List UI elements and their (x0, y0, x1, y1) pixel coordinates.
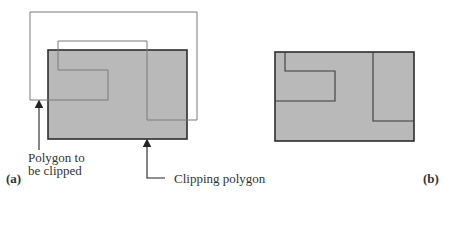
subject-label-line2: be clipped (28, 164, 82, 177)
clip-arrow (147, 143, 165, 178)
panel-a-label: (a) (6, 172, 21, 185)
panel-b (275, 52, 414, 141)
clip-label: Clipping polygon (174, 172, 265, 185)
clipped-result-area (275, 52, 414, 141)
clipping-polygon (48, 50, 187, 139)
panel-b-label: (b) (423, 172, 439, 185)
